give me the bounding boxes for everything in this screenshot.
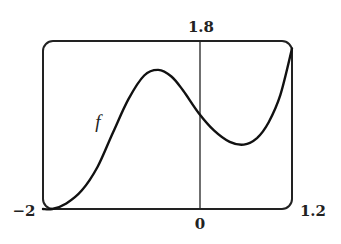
x-min-label: −2 — [12, 202, 35, 220]
origin-label: 0 — [195, 215, 205, 233]
x-max-label: 1.2 — [300, 202, 326, 220]
curve-label-f: f — [95, 111, 103, 132]
function-graph: 1.8 −2 1.2 0 f — [0, 0, 341, 244]
plot-frame — [43, 41, 292, 209]
y-max-label: 1.8 — [188, 18, 214, 36]
curve-f — [43, 49, 292, 210]
